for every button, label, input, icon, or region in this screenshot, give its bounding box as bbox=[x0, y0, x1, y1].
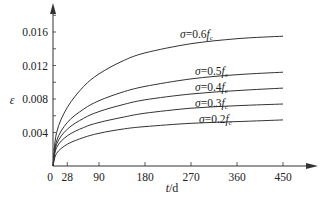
x-tick-label: 270 bbox=[182, 171, 200, 183]
curve-label: σ=0.2fc bbox=[199, 113, 232, 127]
curve-label: σ=0.3fc bbox=[195, 97, 228, 111]
creep-strain-chart: 0.0040.0080.0120.01602890180270360450εt/… bbox=[0, 0, 321, 207]
x-tick-label: 450 bbox=[274, 171, 292, 183]
y-axis-title: ε bbox=[10, 93, 15, 107]
y-axis-arrow-icon bbox=[50, 3, 56, 14]
curves bbox=[53, 36, 283, 166]
y-tick-label: 0.012 bbox=[22, 60, 48, 72]
x-tick-label: 28 bbox=[62, 171, 74, 183]
curve-label: σ=0.6fc bbox=[180, 28, 213, 42]
curve-label: σ=0.4fc bbox=[195, 81, 228, 95]
curve-series bbox=[53, 36, 283, 166]
x-tick-label: 0 bbox=[47, 171, 53, 183]
y-tick-label: 0.016 bbox=[22, 26, 48, 38]
x-tick-label: 360 bbox=[228, 171, 246, 183]
curve-series bbox=[53, 120, 283, 166]
x-axis-arrow-icon bbox=[306, 163, 318, 169]
curve-series bbox=[53, 72, 283, 166]
y-tick-label: 0.004 bbox=[22, 127, 48, 139]
x-tick-label: 180 bbox=[136, 171, 154, 183]
y-tick-label: 0.008 bbox=[22, 93, 48, 105]
x-tick-label: 90 bbox=[93, 171, 105, 183]
curve-series bbox=[53, 88, 283, 166]
x-axis-title: t/d bbox=[166, 181, 179, 195]
curve-label: σ=0.5fc bbox=[195, 65, 228, 79]
axes: 0.0040.0080.0120.01602890180270360450εt/… bbox=[10, 3, 318, 195]
curve-series bbox=[53, 104, 283, 166]
